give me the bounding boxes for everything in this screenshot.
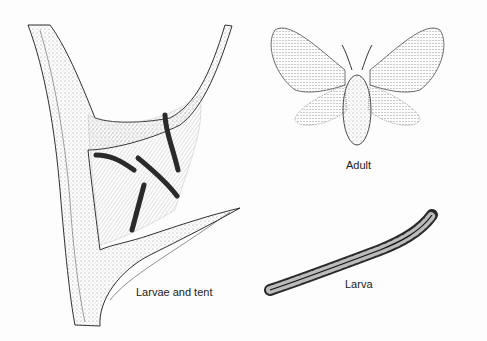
illustration-svg [0,0,487,341]
label-larvae-and-tent: Larvae and tent [136,286,212,298]
label-adult: Adult [346,159,371,171]
adult-moth [271,28,444,145]
silk-tent [88,95,201,245]
label-larva: Larva [345,278,373,290]
illustration-canvas: Larvae and tent Adult Larva [0,0,487,341]
